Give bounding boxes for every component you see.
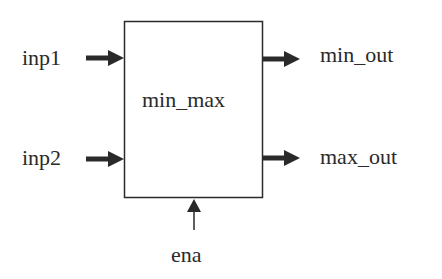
min-out-label: min_out (320, 44, 393, 66)
inp2-arrow-icon (86, 151, 124, 167)
max-out-label: max_out (320, 146, 397, 168)
block-label: min_max (142, 89, 225, 111)
inp1-arrow-icon (86, 50, 124, 66)
ena-arrow-icon (187, 199, 201, 230)
min-out-arrow-icon (262, 51, 300, 67)
inp1-label: inp1 (22, 47, 61, 69)
max-out-arrow-icon (262, 150, 300, 166)
inp2-label: inp2 (22, 147, 61, 169)
ena-label: ena (171, 244, 202, 266)
